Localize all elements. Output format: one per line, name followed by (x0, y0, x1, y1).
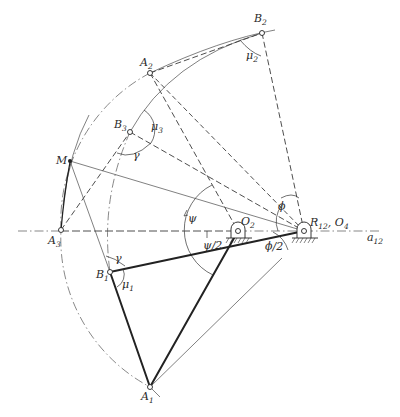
label-phi: ϕ (278, 200, 286, 213)
linkage-members (110, 231, 304, 387)
label-psi-half: ψ/2 (203, 239, 222, 252)
point-a1 (148, 385, 153, 390)
label-r12-o4: R12, O4 (309, 216, 349, 231)
label-b3: B3 (113, 118, 127, 133)
label-b2: B2 (253, 12, 267, 27)
construction-lines (61, 33, 304, 397)
arc-m (61, 115, 89, 230)
label-a1: A1 (140, 390, 154, 405)
label-psi: ψ (188, 212, 197, 225)
label-b1: B1 (95, 268, 109, 283)
point-a2 (148, 71, 153, 76)
point-b3 (128, 130, 133, 135)
label-a12: a12 (367, 231, 383, 246)
label-mu3: μ3 (151, 120, 163, 135)
linkage-synthesis-diagram: A2 B2 B3 M A3 B1 A1 O2 R12, O4 a12 μ3 μ2… (0, 0, 400, 417)
label-a2: A2 (139, 56, 153, 71)
label-gamma-bottom: γ (115, 252, 122, 265)
point-b2 (260, 31, 265, 36)
label-phi-half: ϕ/2 (265, 240, 283, 253)
label-mu1: μ1 (122, 278, 134, 293)
point-m (68, 159, 72, 163)
point-a3 (59, 228, 64, 233)
label-m: M (55, 154, 68, 167)
labels: A2 B2 B3 M A3 B1 A1 O2 R12, O4 a12 μ3 μ2… (47, 12, 383, 405)
label-mu2: μ2 (246, 49, 258, 64)
label-o2: O2 (241, 215, 255, 230)
arc-psi (184, 185, 213, 275)
label-a3: A3 (47, 234, 61, 249)
label-gamma-top: γ (133, 149, 140, 162)
